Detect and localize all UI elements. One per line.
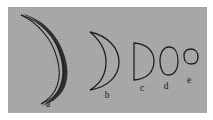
crescent-diagram: a b c d e [8,7,207,113]
shape-e-outline [184,49,198,64]
figure-panel: a b c d e [8,7,207,113]
shape-b [90,32,119,90]
shape-b-outer-limb [90,32,119,90]
shape-label-d: d [164,81,169,91]
shape-label-c: c [140,83,144,93]
shape-label-e: e [187,75,191,85]
shape-label-b: b [105,90,110,100]
shape-a-terminator [21,15,59,104]
shape-c-outline [134,43,154,80]
shape-e [184,49,198,64]
shape-d [160,47,178,75]
shape-d-outline [160,47,178,75]
shape-a [19,13,67,106]
shape-b-terminator [90,32,106,90]
shape-c [134,43,154,80]
figure-root: a b c d e [0,0,213,120]
